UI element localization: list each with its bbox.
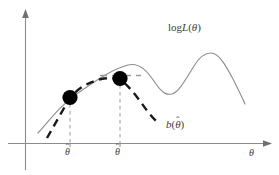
- x-tick-label-2: ˆθ: [115, 147, 120, 157]
- droplines-group: [70, 78, 120, 143]
- tick-2-hat-accent: ˆ: [116, 144, 119, 154]
- marker-theta-hat-2: [112, 71, 127, 86]
- x-axis-label: θ: [249, 148, 254, 158]
- log-prefix: log: [168, 21, 182, 33]
- y-axis-arrowhead: [22, 9, 29, 18]
- tick-2-theta-hat: ˆθ: [115, 147, 120, 157]
- x-tick-label-1: ˆθ: [65, 147, 70, 157]
- bias-hat-accent: ˆ: [176, 116, 179, 126]
- log-likelihood-label: logL(θ): [168, 22, 201, 33]
- marker-theta-hat-1: [62, 90, 77, 105]
- bias-paren-close: ): [181, 118, 185, 130]
- bias-arg-theta-hat: ˆθ: [175, 119, 180, 130]
- tick-1-hat-accent: ˆ: [66, 144, 69, 154]
- x-axis-theta-glyph: θ: [249, 147, 254, 158]
- likelihood-figure: logL(θ) b(ˆθ) θ ˆθ ˆθ: [0, 0, 279, 175]
- bias-curve: [47, 78, 159, 138]
- x-axis-arrowhead: [263, 140, 272, 147]
- log-paren-close: ): [197, 21, 201, 33]
- bias-curve-label: b(ˆθ): [166, 119, 184, 130]
- tick-1-theta-hat: ˆθ: [65, 147, 70, 157]
- figure-canvas: [0, 0, 279, 175]
- axes-group: [8, 9, 272, 170]
